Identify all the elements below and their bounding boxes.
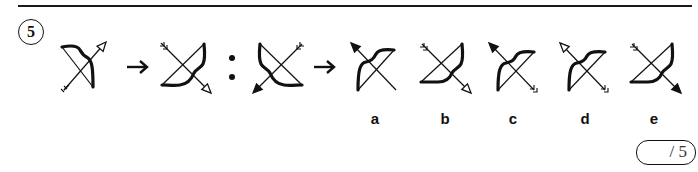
colon-dot-top [229,55,235,61]
figure-3-bow-and-arrow-icon [250,40,308,96]
right-arrow-icon [313,60,337,74]
option-d-label[interactable]: d [575,110,595,127]
option-e-bow-and-arrow-icon[interactable] [628,40,686,96]
figure-2-bow-and-arrow-icon [158,40,216,96]
figure-1-bow-and-arrow-icon [60,40,110,94]
option-b-bow-and-arrow-icon[interactable] [418,40,476,96]
option-d-bow-and-arrow-icon[interactable] [557,40,613,96]
option-a-label[interactable]: a [365,110,385,127]
question-number: 5 [18,19,44,45]
score-box[interactable]: / 5 [636,140,696,165]
option-b-label[interactable]: b [435,110,455,127]
option-a-bow-and-arrow-icon[interactable] [348,40,404,96]
top-rule [18,5,692,7]
right-arrow-icon [126,60,150,74]
option-c-label[interactable]: c [503,110,523,127]
colon-dot-bottom [229,74,235,80]
option-c-bow-and-arrow-icon[interactable] [486,40,542,96]
option-e-label[interactable]: e [644,110,664,127]
question-number-text: 5 [27,23,35,40]
score-text: / 5 [670,142,687,162]
